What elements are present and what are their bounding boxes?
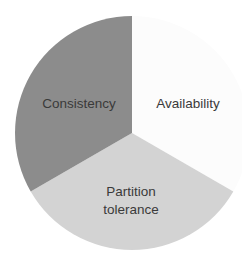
label-partition-tolerance: Partition tolerance	[103, 183, 159, 219]
label-consistency: Consistency	[42, 95, 116, 113]
label-partition-line1: Partition	[103, 183, 159, 201]
label-availability: Availability	[156, 95, 220, 113]
label-partition-line2: tolerance	[103, 201, 159, 219]
